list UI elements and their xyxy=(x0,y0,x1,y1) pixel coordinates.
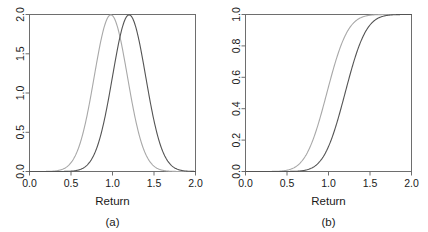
panel-b-y-ticks xyxy=(242,15,246,172)
panel-b-x-tick-4: 2.0 xyxy=(404,177,419,189)
panel-a-y-tick-labels: 0.0 0.5 1.0 1.5 2.0 xyxy=(14,7,26,179)
panel-a-frame xyxy=(30,15,196,172)
panel-b-cdf-curve-dark xyxy=(246,15,412,172)
panel-b: 0.0 0.2 0.4 0.6 0.8 1.0 0.0 0.5 1.0 1.5 xyxy=(214,0,428,232)
panel-a: 0.0 0.5 1.0 1.5 2.0 0.0 0.5 1.0 1.5 2.0 xyxy=(0,0,214,232)
panel-b-frame xyxy=(246,15,412,172)
panel-b-caption: (b) xyxy=(321,216,335,228)
panel-a-x-tick-0: 0.0 xyxy=(22,177,37,189)
panel-b-y-tick-2: 0.4 xyxy=(230,101,242,116)
panel-b-plot: 0.0 0.2 0.4 0.6 0.8 1.0 0.0 0.5 1.0 1.5 xyxy=(214,0,428,232)
panel-a-density-curve-dark xyxy=(30,15,196,172)
panel-a-y-tick-1: 0.5 xyxy=(14,125,26,140)
panel-b-y-tick-3: 0.6 xyxy=(230,70,242,85)
panel-a-x-tick-4: 2.0 xyxy=(188,177,203,189)
panel-b-x-tick-labels: 0.0 0.5 1.0 1.5 2.0 xyxy=(238,177,419,189)
panel-b-cdf-curve-light xyxy=(246,15,412,172)
panel-a-x-tick-labels: 0.0 0.5 1.0 1.5 2.0 xyxy=(22,177,203,189)
panel-b-y-tick-4: 0.8 xyxy=(230,38,242,53)
panel-b-x-tick-0: 0.0 xyxy=(238,177,253,189)
panel-a-x-axis-title: Return xyxy=(95,195,130,207)
panel-b-x-tick-2: 1.0 xyxy=(321,177,336,189)
panel-a-y-ticks xyxy=(26,15,30,172)
panel-a-y-tick-3: 1.5 xyxy=(14,46,26,61)
panel-b-x-axis-title: Return xyxy=(311,195,346,207)
panel-a-x-tick-2: 1.0 xyxy=(105,177,120,189)
panel-b-y-tick-1: 0.2 xyxy=(230,133,242,148)
panel-a-x-tick-1: 0.5 xyxy=(64,177,79,189)
panel-b-y-tick-labels: 0.0 0.2 0.4 0.6 0.8 1.0 xyxy=(230,7,242,179)
panel-b-x-ticks xyxy=(246,172,412,176)
figure-container: 0.0 0.5 1.0 1.5 2.0 0.0 0.5 1.0 1.5 2.0 xyxy=(0,0,428,232)
panel-a-y-tick-2: 1.0 xyxy=(14,86,26,101)
panel-a-y-tick-4: 2.0 xyxy=(14,7,26,22)
panel-b-x-tick-3: 1.5 xyxy=(363,177,378,189)
panel-a-plot: 0.0 0.5 1.0 1.5 2.0 0.0 0.5 1.0 1.5 2.0 xyxy=(0,0,214,232)
panel-a-caption: (a) xyxy=(105,216,119,228)
panel-b-y-tick-5: 1.0 xyxy=(230,7,242,22)
panel-b-x-tick-1: 0.5 xyxy=(280,177,295,189)
panel-a-x-ticks xyxy=(30,172,196,176)
panel-a-x-tick-3: 1.5 xyxy=(147,177,162,189)
panel-a-density-curve-light xyxy=(30,15,196,172)
